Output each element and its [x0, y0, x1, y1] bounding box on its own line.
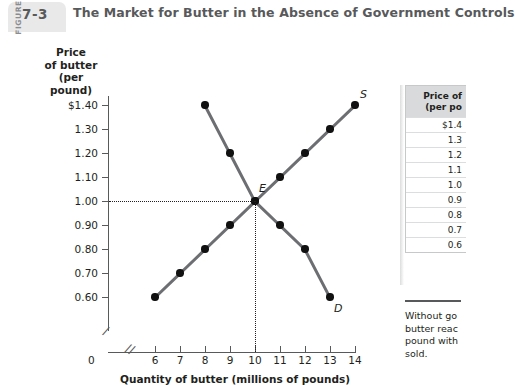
table-row: 1.2 [406, 147, 466, 162]
price-quantity-table: Price of (per po $1.41.31.21.11.00.90.80… [405, 85, 466, 253]
y-tick-label: $1.40 [38, 99, 98, 111]
supply-data-point [226, 221, 233, 228]
x-tick-label: 12 [293, 354, 317, 366]
x-tick [180, 346, 181, 352]
y-tick [102, 129, 108, 130]
x-tick-label: 11 [268, 354, 292, 366]
supply-data-point [276, 173, 283, 180]
supply-data-point [201, 245, 208, 252]
y-tick [102, 273, 108, 274]
equilibrium-quantity-guide [255, 201, 256, 352]
y-axis-title: Price of butter (per pound) [36, 46, 106, 96]
panel-divider [405, 300, 461, 302]
x-tick [280, 346, 281, 352]
demand-data-point [226, 149, 233, 156]
demand-data-point [301, 245, 308, 252]
panel-note-line-2: butter reac [405, 323, 475, 336]
panel-note-line-4: sold. [405, 348, 475, 361]
y-axis-title-line-2: of butter [36, 59, 106, 72]
equilibrium-label: E [259, 182, 266, 195]
table-header: Price of (per po [406, 86, 466, 117]
x-axis-title: Quantity of butter (millions of pounds) [100, 373, 370, 385]
supply-curve-label: S [360, 88, 367, 101]
table-row: 1.0 [406, 177, 466, 192]
table-row: 0.8 [406, 207, 466, 222]
y-tick [102, 225, 108, 226]
demand-data-point [326, 293, 333, 300]
demand-curve-segment [304, 248, 331, 297]
origin-label: 0 [88, 354, 95, 366]
x-tick [355, 346, 356, 352]
y-tick-label: 1.30 [38, 123, 98, 135]
figure-number: 7-3 [22, 6, 48, 22]
supply-data-point [351, 101, 358, 108]
table-header-line-2: (per po [410, 102, 462, 113]
y-tick [102, 297, 108, 298]
y-tick [102, 153, 108, 154]
y-tick [102, 177, 108, 178]
x-tick [330, 346, 331, 352]
x-tick-label: 9 [218, 354, 242, 366]
table-row: 1.1 [406, 162, 466, 177]
demand-data-point [276, 221, 283, 228]
y-axis-break-icon: ∕ [101, 324, 110, 338]
x-tick [305, 346, 306, 352]
table-header-line-1: Price of [410, 91, 462, 102]
table-body: $1.41.31.21.11.00.90.80.70.6 [406, 117, 466, 252]
x-tick-label: 6 [143, 354, 167, 366]
equilibrium-price-guide [109, 201, 255, 202]
panel-note-line-3: pound with [405, 335, 475, 348]
demand-curve-segment [204, 104, 231, 153]
y-tick-label: 0.90 [38, 219, 98, 231]
table-row: 0.9 [406, 192, 466, 207]
demand-curve-segment [229, 152, 256, 201]
x-tick-label: 14 [343, 354, 367, 366]
x-tick-label: 8 [193, 354, 217, 366]
x-tick [230, 346, 231, 352]
y-tick [102, 249, 108, 250]
x-tick-label: 13 [318, 354, 342, 366]
x-axis-break-icon: ∕∕ [124, 341, 137, 357]
y-tick [102, 201, 108, 202]
demand-data-point [201, 101, 208, 108]
demand-curve-label: D [334, 302, 342, 315]
table-row: 1.3 [406, 132, 466, 147]
supply-data-point [326, 125, 333, 132]
y-axis-line [108, 96, 109, 331]
x-tick-label: 10 [243, 354, 267, 366]
y-tick-label: 0.60 [38, 291, 98, 303]
table-row: 0.7 [406, 222, 466, 237]
chart-area: Price of butter (per pound) ∕ ∕∕ 0 $1.40… [0, 34, 392, 365]
y-tick-label: 1.10 [38, 171, 98, 183]
table-row: $1.4 [406, 117, 466, 132]
x-tick [205, 346, 206, 352]
supply-data-point [301, 149, 308, 156]
right-panel: Price of (per po $1.41.31.21.11.00.90.80… [400, 0, 457, 365]
y-axis-title-line-1: Price [36, 46, 106, 59]
x-tick [155, 346, 156, 352]
x-tick-label: 7 [168, 354, 192, 366]
panel-note-line-1: Without go [405, 310, 475, 323]
y-tick [102, 105, 108, 106]
y-tick-label: 0.70 [38, 267, 98, 279]
y-axis-title-line-3: (per pound) [36, 71, 106, 96]
supply-data-point [151, 293, 158, 300]
table-row: 0.6 [406, 237, 466, 252]
supply-data-point [176, 269, 183, 276]
panel-note: Without go butter reac pound with sold. [405, 310, 475, 360]
y-tick-label: 1.00 [38, 195, 98, 207]
y-tick-label: 0.80 [38, 243, 98, 255]
y-tick-label: 1.20 [38, 147, 98, 159]
figure-header: FIGURE 7-3 The Market for Butter in the … [0, 0, 457, 30]
